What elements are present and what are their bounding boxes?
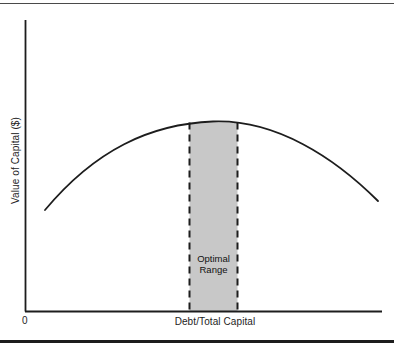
optimal-range-band [190, 123, 238, 312]
figure-bottom-rule [0, 340, 394, 343]
y-axis-label: Value of Capital ($) [10, 101, 21, 221]
x-axis-label: Debt/Total Capital [135, 316, 295, 327]
optimal-range-label-line1: Optimal [189, 253, 238, 264]
optimal-range-label-line2: Range [189, 264, 238, 275]
origin-tick-label: 0 [22, 315, 28, 326]
chart-figure: Value of Capital ($) Debt/Total Capital … [0, 0, 394, 352]
optimal-range-label: Optimal Range [189, 253, 238, 275]
chart-plot-area [0, 0, 394, 352]
